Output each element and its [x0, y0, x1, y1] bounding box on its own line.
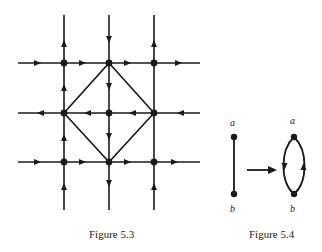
node — [61, 159, 68, 166]
node — [106, 159, 113, 166]
caption-figure-5-4: Figure 5.4 — [249, 228, 294, 240]
arrow-right-icon — [175, 60, 182, 66]
arrow-right-icon — [171, 159, 178, 165]
arrow-down-icon — [106, 36, 112, 43]
arrow-up-icon — [61, 84, 67, 91]
figure-canvas — [0, 0, 322, 252]
node-a-right — [291, 134, 297, 140]
label-a-left: a — [230, 117, 235, 128]
arrow-right-icon — [124, 159, 131, 165]
node — [106, 110, 113, 117]
node — [151, 110, 158, 117]
arrow-right-icon — [268, 166, 277, 174]
node — [151, 60, 158, 67]
arrow-down-icon — [106, 133, 112, 140]
node — [61, 110, 68, 117]
arrow-right-icon — [124, 60, 131, 66]
node-b-right — [291, 191, 297, 197]
caption-figure-5-3: Figure 5.3 — [89, 228, 134, 240]
arrow-up-icon — [61, 134, 67, 141]
arrow-up-icon — [151, 183, 157, 190]
arrow-right-icon — [34, 159, 41, 165]
arrow-right-icon — [34, 60, 41, 66]
label-b-right: b — [290, 203, 295, 214]
arrow-down-icon — [282, 163, 288, 170]
label-b-left: b — [230, 203, 235, 214]
arrow-left-icon — [37, 110, 44, 116]
arrow-up-icon — [301, 163, 307, 170]
arrow-left-icon — [84, 110, 91, 116]
node — [151, 159, 158, 166]
node — [106, 60, 113, 67]
node — [61, 60, 68, 67]
arrow-down-icon — [106, 83, 112, 90]
node-a-left — [231, 134, 237, 140]
arrow-up-icon — [151, 40, 157, 47]
arrow-right-icon — [79, 60, 86, 66]
label-a-right: a — [290, 115, 295, 126]
arrow-up-icon — [61, 40, 67, 47]
arrow-left-icon — [177, 110, 184, 116]
arrow-right-icon — [79, 159, 86, 165]
arrow-down-icon — [106, 180, 112, 187]
figure-5-4 — [231, 134, 307, 197]
arrow-up-icon — [61, 183, 67, 190]
arrow-left-icon — [129, 110, 136, 116]
node-b-left — [231, 191, 237, 197]
